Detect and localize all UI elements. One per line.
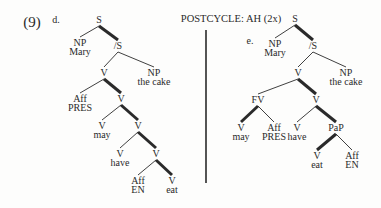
head-branch xyxy=(316,106,336,122)
head-branch xyxy=(298,79,316,94)
head-branch xyxy=(295,25,313,40)
tree-node-v1: V xyxy=(294,68,301,78)
tree-node-v2: V xyxy=(117,94,124,104)
branch xyxy=(297,106,316,122)
tree-node-v1: V xyxy=(100,68,107,78)
terminal-word: Mary xyxy=(69,47,91,57)
tree-node-s: S xyxy=(292,14,298,24)
head-branch xyxy=(99,26,118,40)
tree-node-v2: V xyxy=(312,95,319,105)
branch xyxy=(102,105,121,120)
branch xyxy=(258,106,274,122)
head-branch xyxy=(121,105,138,120)
terminal-word: eat xyxy=(311,160,323,170)
terminal-word: PRES xyxy=(262,132,286,142)
tree-node-pap: PaP xyxy=(328,123,344,133)
tree-d-label: d. xyxy=(52,15,60,25)
head-branch xyxy=(138,132,156,148)
terminal-word: PRES xyxy=(68,103,92,113)
terminal-word: may xyxy=(93,130,110,140)
branch xyxy=(80,26,99,37)
tree-edges xyxy=(0,0,381,208)
tree-e-label: e. xyxy=(247,36,254,46)
branch xyxy=(120,132,138,148)
head-branch xyxy=(104,79,121,93)
branch xyxy=(313,52,346,67)
terminal-word: EN xyxy=(131,185,144,195)
branch xyxy=(336,134,352,150)
tree-node-s2: /S xyxy=(114,41,122,51)
branch xyxy=(258,79,298,94)
example-number: (9) xyxy=(23,15,41,30)
tree-node-v4: V xyxy=(152,149,159,159)
terminal-word: eat xyxy=(166,185,178,195)
terminal-word: the cake xyxy=(137,77,170,87)
postcycle-header: POSTCYCLE: AH (2x) xyxy=(181,14,281,25)
tree-node-s: S xyxy=(96,15,102,25)
syntax-tree-figure: (9) POSTCYCLE: AH (2x) d. e. SNPMary/SVN… xyxy=(0,0,381,208)
terminal-word: may xyxy=(232,132,249,142)
terminal-word: have xyxy=(111,158,130,168)
branch xyxy=(138,160,156,175)
branch xyxy=(80,79,104,93)
branch xyxy=(275,25,295,38)
terminal-word: the cake xyxy=(329,77,362,87)
tree-node-fv: FV xyxy=(252,95,265,105)
branch xyxy=(104,52,118,67)
terminal-word: EN xyxy=(345,160,358,170)
terminal-word: Mary xyxy=(264,48,286,58)
tree-node-s2: /S xyxy=(309,41,317,51)
head-branch xyxy=(156,160,172,175)
branch xyxy=(298,52,313,67)
tree-node-v3: V xyxy=(134,121,141,131)
branch xyxy=(118,52,154,67)
terminal-word: have xyxy=(288,132,307,142)
head-branch xyxy=(241,106,258,122)
head-branch xyxy=(317,134,336,150)
